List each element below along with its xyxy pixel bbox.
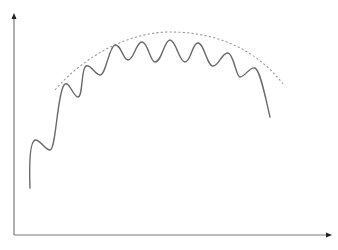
y-axis-arrow-icon xyxy=(12,13,17,19)
oscillating-signal-curve xyxy=(30,40,270,188)
x-axis-arrow-icon xyxy=(326,233,332,238)
chart-canvas xyxy=(0,0,338,250)
